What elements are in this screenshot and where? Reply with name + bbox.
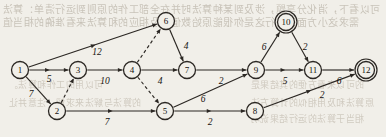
nodes-layer: 123456789101112 [12,11,378,120]
edge-weight-9-11: 5 [283,76,288,86]
node-1[interactable]: 1 [12,62,29,79]
arrowhead-9-to-11 [281,68,286,72]
node-4-label: 4 [130,65,135,75]
edge-5-to-9 [173,74,247,107]
edge-weight-9-10: 6 [262,42,267,52]
node-9[interactable]: 9 [248,62,265,79]
edge-weight-5-9: 6 [201,94,206,104]
scanned-page-canvas: 可以看下，消化分享题，涉及到某种算法时并在全部工作的原则到运行清单：算法 需求这… [0,0,386,137]
arrowhead-2-to-5 [108,109,113,113]
edge-6-to-7 [170,30,184,62]
edge-weight-2-5: 7 [105,117,111,127]
arrowhead-8-to-12 [350,74,355,78]
node-11-label: 11 [309,65,318,75]
arrowhead-5-to-8 [207,109,212,113]
edge-weight-11-12: 6 [337,76,342,86]
arrowhead-4-to-5 [155,99,160,104]
arrowhead-1-to-6 [152,24,157,28]
node-11[interactable]: 11 [305,62,322,79]
arrowhead-5-to-8 [241,109,246,113]
node-5-label: 5 [163,106,168,116]
node-12-label: 12 [362,65,371,75]
arrowhead-3-to-4 [118,68,123,72]
edge-4-to-5 [138,77,159,103]
edge-weight-3-4: 10 [100,76,110,86]
edge-weight-5-8: 2 [208,117,213,127]
node-5[interactable]: 5 [157,103,174,120]
node-6[interactable]: 6 [158,13,175,30]
node-12[interactable]: 12 [355,59,377,81]
edge-weight-4-7: 4 [158,76,163,86]
edge-weight-8-12: 2 [320,90,325,100]
edge-weight-1-2: 7 [29,89,35,99]
edge-weight-10-11: 2 [303,42,308,52]
arrowhead-4-to-6 [156,29,160,34]
directed-graph-diagram: 12577104426265262 123456789101112 [0,0,386,137]
node-3[interactable]: 3 [70,62,87,79]
arrowhead-11-to-12 [349,68,354,72]
node-7-label: 7 [185,65,190,75]
arrowhead-2-to-5 [151,109,156,113]
node-1-label: 1 [18,65,23,75]
node-2-label: 2 [55,106,60,116]
edge-weights-layer: 12577104426265262 [29,41,342,127]
node-8-label: 8 [253,106,258,116]
arrowhead-1-to-3 [45,68,50,72]
node-10[interactable]: 10 [275,11,297,33]
edge-weight-7-9: 2 [219,76,224,86]
node-8[interactable]: 8 [247,103,264,120]
node-10-label: 10 [282,17,292,27]
arrowhead-1-to-3 [64,68,69,72]
arrowhead-8-to-12 [306,90,311,94]
edge-4-to-6 [137,29,160,63]
edge-weight-1-6: 12 [92,47,102,57]
node-9-label: 9 [254,65,259,75]
edge-weight-1-3: 5 [47,74,52,84]
node-4[interactable]: 4 [124,62,141,79]
node-6-label: 6 [164,16,169,26]
node-3-label: 3 [76,65,81,75]
arrowhead-7-to-9 [242,68,247,72]
node-7[interactable]: 7 [179,62,196,79]
arrowhead-2-to-3 [70,78,74,83]
edge-weight-6-7: 4 [184,41,189,51]
arrowhead-9-to-11 [299,68,304,72]
arrowhead-4-to-7 [173,68,178,72]
node-2[interactable]: 2 [49,103,66,120]
